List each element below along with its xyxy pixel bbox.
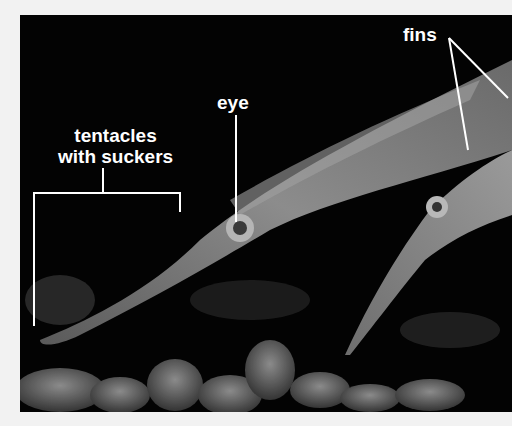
tentacles-label: tentacles with suckers	[58, 125, 173, 167]
tentacles-label-line1: tentacles	[58, 125, 173, 146]
squid-illustration	[20, 15, 512, 412]
tentacles-label-line2: with suckers	[58, 146, 173, 167]
squid-photo	[20, 15, 512, 412]
coral-reef	[20, 275, 500, 412]
eye-label: eye	[217, 92, 249, 113]
fins-label: fins	[403, 24, 437, 45]
